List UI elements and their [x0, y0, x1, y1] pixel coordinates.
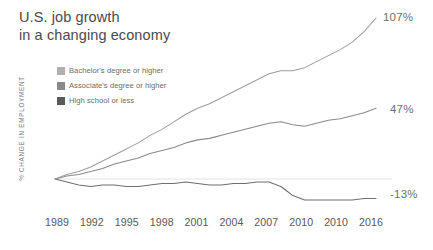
x-axis-tick: 1989	[45, 216, 69, 228]
x-axis-tick: 2016	[359, 216, 383, 228]
x-axis-tick: 2010	[289, 216, 313, 228]
x-axis-tick: 1995	[115, 216, 139, 228]
x-axis-tick: 2004	[219, 216, 243, 228]
x-axis-tick: 2007	[254, 216, 278, 228]
end-label-associates: 47%	[390, 103, 414, 115]
series-line-highschool	[55, 179, 376, 200]
end-label-highschool: -13%	[390, 188, 418, 200]
series-line-associates	[55, 108, 376, 179]
x-axis-tick: 2001	[185, 216, 209, 228]
plot-svg	[0, 0, 433, 250]
x-axis-tick: 1998	[150, 216, 174, 228]
series-line-bachelors	[55, 18, 376, 179]
end-label-bachelors: 107%	[383, 11, 413, 23]
chart-container: U.S. job growth in a changing economy Ba…	[0, 0, 433, 250]
plot-area	[0, 0, 433, 250]
x-axis: 1989199219951998200120042007201020102016	[0, 216, 433, 236]
x-axis-tick: 2010	[324, 216, 348, 228]
x-axis-tick: 1992	[80, 216, 104, 228]
